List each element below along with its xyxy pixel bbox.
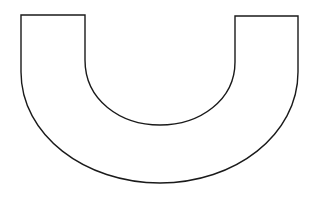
u-shape-outline: [21, 15, 298, 183]
diagram-canvas: u-shape-outline: [0, 0, 312, 199]
u-shape: [0, 0, 312, 199]
